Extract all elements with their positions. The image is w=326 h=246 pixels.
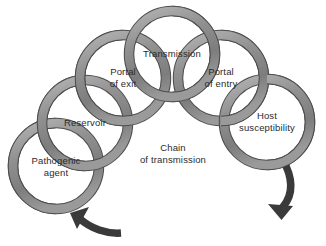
chain-rings-graphic [0, 0, 326, 246]
chain-of-transmission-diagram: Pathogenic agent Reservoir Portal of exi… [0, 0, 326, 246]
ring-group [13, 11, 310, 209]
arrow-bottom-ascending-icon [70, 207, 121, 233]
arrow-right-descending-icon [268, 166, 293, 220]
